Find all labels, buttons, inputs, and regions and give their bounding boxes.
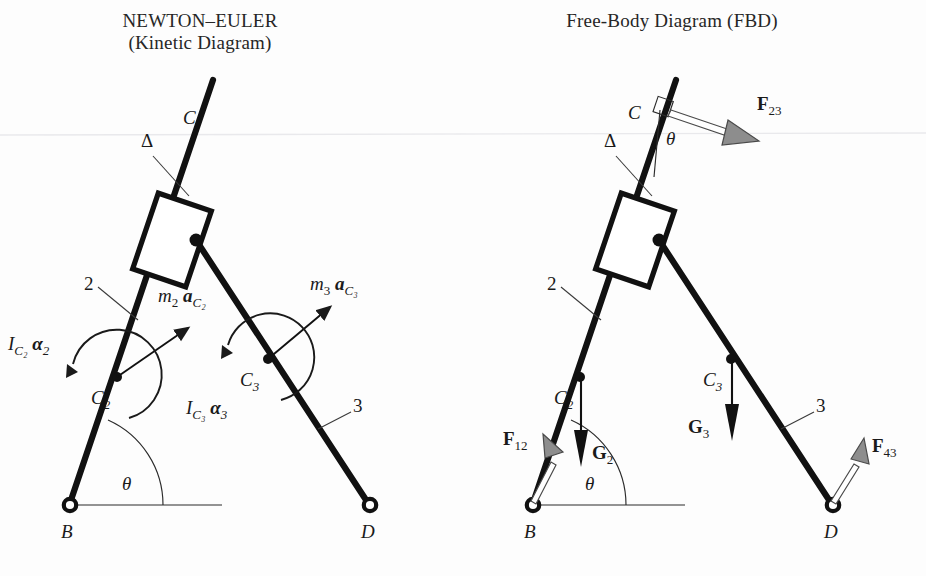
label-B-left: B <box>61 521 73 542</box>
pivot-B-left <box>64 499 76 511</box>
label-C3-right: C3 <box>703 369 723 394</box>
theta-top-label-right: θ <box>666 128 675 149</box>
panel-kinetic: NEWTON–EULER (Kinetic Diagram) θ B D C Δ <box>7 10 376 542</box>
force-arrow-F43 <box>831 438 869 504</box>
force-label-G3: G3 <box>688 416 709 441</box>
force-arrow-F12 <box>531 434 563 504</box>
engineering-diagram-svg: NEWTON–EULER (Kinetic Diagram) θ B D C Δ <box>0 0 926 576</box>
inertia-couple-arrowhead-C3-left <box>221 345 233 359</box>
slider-joint-left <box>190 234 203 247</box>
link3-leader-left <box>318 412 351 429</box>
link3-number-left: 3 <box>353 395 363 416</box>
force-label-F43: F43 <box>872 435 897 460</box>
inertia-couple-label-C3-left: IC₃ α3 <box>185 397 228 422</box>
link2-leader-left <box>98 287 138 320</box>
link3-leader-right <box>781 412 814 429</box>
delta-symbol-right: Δ <box>604 130 616 151</box>
link2-leader-right <box>561 287 601 320</box>
panel-fbd: Free-Body Diagram (FBD) θ B D C Δ 2 <box>503 10 897 542</box>
theta-label-left: θ <box>122 473 131 494</box>
link2-number-right: 2 <box>547 273 557 294</box>
label-D-right: D <box>823 521 838 542</box>
inertia-force-label-C3-left: m3 aC₃ <box>310 273 358 298</box>
link3-number-right: 3 <box>816 395 826 416</box>
theta-label-right: θ <box>585 473 594 494</box>
label-C-right: C <box>628 102 641 123</box>
link-3-bar-right <box>659 240 831 503</box>
panel-title-line2: (Kinetic Diagram) <box>128 32 271 54</box>
panel-title-line1: NEWTON–EULER <box>122 10 277 31</box>
scan-artifact-line <box>0 133 926 135</box>
force-arrow-G3 <box>725 359 739 441</box>
force-label-F23: F23 <box>757 93 782 118</box>
inertia-couple-arrowhead-C2-left <box>66 364 78 378</box>
inertia-force-label-C2-left: m2 aC₂ <box>158 285 206 310</box>
diagram-canvas: NEWTON–EULER (Kinetic Diagram) θ B D C Δ <box>0 0 926 576</box>
label-B-right: B <box>524 521 536 542</box>
panel-title-fbd: Free-Body Diagram (FBD) <box>566 10 777 32</box>
label-C-left: C <box>183 107 196 128</box>
link2-number-left: 2 <box>84 273 94 294</box>
inertia-couple-label-C2-left: IC₂ α2 <box>7 333 50 358</box>
force-arrow-F23 <box>668 110 759 145</box>
label-C3-left: C3 <box>240 369 260 394</box>
force-label-G2: G2 <box>592 442 613 467</box>
pivot-D-left <box>364 499 376 511</box>
force-label-F12: F12 <box>503 428 528 453</box>
label-D-left: D <box>360 521 375 542</box>
slider-joint-right <box>653 234 666 247</box>
theta-arc-left <box>108 420 163 505</box>
delta-symbol-left: Δ <box>141 130 153 151</box>
